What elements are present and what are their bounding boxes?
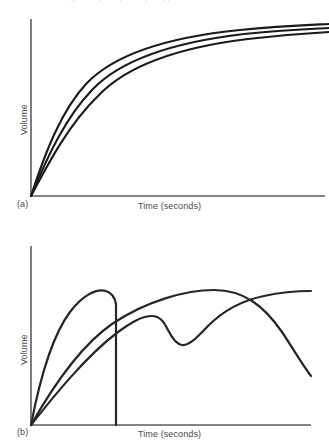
- chart-b-curve-broad-peak: [31, 290, 311, 425]
- chart-a-y-axis-label: Volume: [19, 104, 29, 135]
- chart-a-curve-2: [31, 28, 329, 196]
- chart-b-canvas: [0, 228, 329, 446]
- chart-a-curve-3: [31, 32, 329, 196]
- chart-b-panel-letter: (b): [17, 427, 28, 437]
- chart-b-curve-dip-plateau: [31, 291, 311, 425]
- chart-b-y-axis-label: Volume: [19, 334, 29, 365]
- chart-panel-b: Volume Time (seconds) (b): [0, 228, 329, 446]
- chart-a-panel-letter: (a): [17, 199, 28, 209]
- chart-a-x-axis-label: Time (seconds): [138, 201, 201, 211]
- chart-a-canvas: [0, 0, 329, 228]
- chart-panel-a: Volume Time (seconds) (a): [0, 0, 329, 228]
- figure-root: Figure caption partially cropped Volume …: [0, 0, 329, 446]
- chart-b-x-axis-label: Time (seconds): [138, 429, 201, 439]
